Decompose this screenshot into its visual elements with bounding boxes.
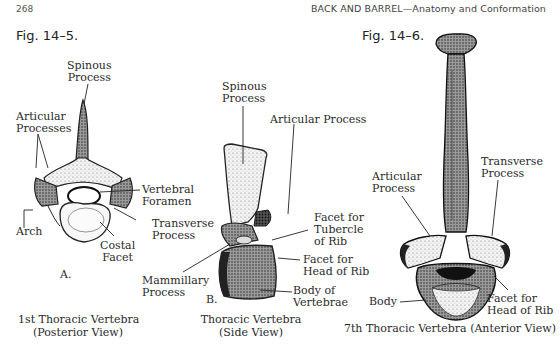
caption-a: 1st Thoracic Vertebra(Posterior View) <box>18 313 138 339</box>
label-line: Head of Rib <box>303 265 369 278</box>
vertebrae-illustration <box>0 0 560 347</box>
label-transverse-process-7th: TransverseProcess <box>481 156 543 180</box>
label-spinous-process-b: SpinousProcess <box>222 81 267 105</box>
label-line: Process <box>152 229 195 242</box>
label-mammillary-process-b: MammillaryProcess <box>142 275 209 299</box>
label-articular-process-b: Articular Process <box>270 114 366 126</box>
label-facet-tubercle-b: Facet forTubercleof Rib <box>314 212 364 248</box>
label-facet-head-rib-7th: Facet forHead of Rib <box>487 293 553 317</box>
caption-line: Thoracic Vertebra <box>201 313 302 326</box>
label-line: Processes <box>16 122 71 135</box>
caption-line: 1st Thoracic Vertebra <box>18 313 139 326</box>
label-line: Process <box>372 182 415 195</box>
label-articular-processes-a: ArticularProcesses <box>16 111 71 135</box>
label-vertebral-foramen-a: VertebralForamen <box>142 184 194 208</box>
label-line: Process <box>222 92 265 105</box>
label-line: Process <box>68 71 111 84</box>
vertebra-b-drawing <box>219 144 276 299</box>
label-line: Vertebrae <box>293 296 348 309</box>
label-line: Head of Rib <box>487 304 553 317</box>
label-line: Process <box>142 286 185 299</box>
label-transverse-process-a: TransverseProcess <box>152 218 214 242</box>
label-line: Facet <box>102 251 133 264</box>
label-spinous-process-a: SpinousProcess <box>67 60 112 84</box>
label-facet-head-rib-b: Facet forHead of Rib <box>303 254 369 278</box>
label-line: Process <box>481 167 524 180</box>
caption-7th: 7th Thoracic Vertebra (Anterior View) <box>340 322 560 335</box>
caption-line: (Posterior View) <box>33 326 123 339</box>
label-articular-process-7th: ArticularProcess <box>372 171 422 195</box>
caption-line: (Side View) <box>219 326 283 339</box>
label-line: of Rib <box>314 235 347 248</box>
label-costal-facet-a: CostalFacet <box>100 240 135 264</box>
label-body-of-vertebrae-b: Body ofVertebrae <box>293 285 348 309</box>
textbook-page: 268 BACK AND BARREL—Anatomy and Conforma… <box>0 0 560 347</box>
label-arch-a: Arch <box>16 226 42 238</box>
label-body-7th: Body <box>369 296 397 308</box>
panel-letter-b: B. <box>206 293 218 306</box>
label-line: Foramen <box>142 195 192 208</box>
caption-b: Thoracic Vertebra(Side View) <box>196 313 306 339</box>
panel-letter-a: A. <box>60 268 71 281</box>
